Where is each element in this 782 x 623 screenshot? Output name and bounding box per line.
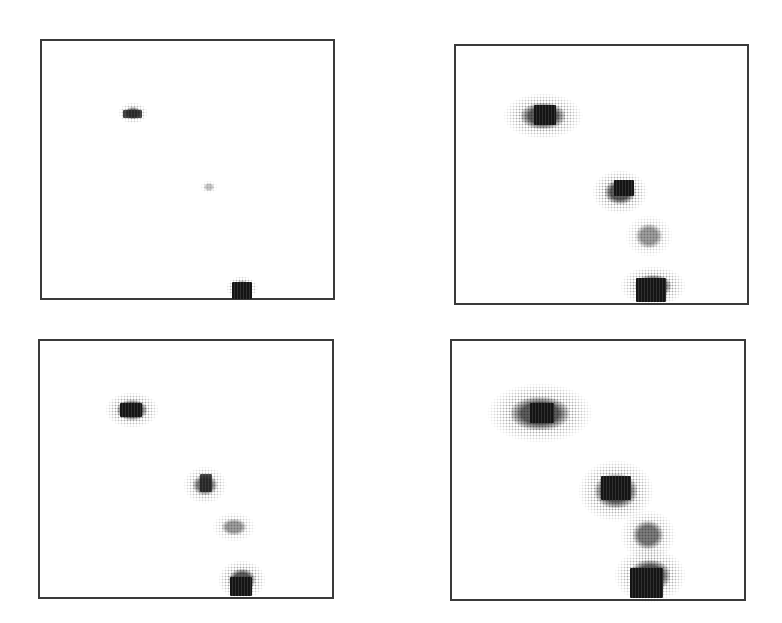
blob-mid-third-spot [222, 519, 246, 536]
panel-bottom-left [38, 339, 334, 599]
blob-core-second-spot [200, 474, 212, 492]
blob-core-upper-spot [530, 403, 554, 423]
blob-core-upper-spot [120, 403, 142, 417]
blob-mid-third-spot [633, 521, 664, 549]
blob-core-second-spot [614, 180, 634, 196]
blob-core-bottom-block [636, 278, 666, 302]
panel-top-left [40, 39, 335, 300]
blob-mid-third-spot [636, 224, 662, 247]
blob-core-bottom-block [232, 282, 252, 299]
blob-core-upper-spot [534, 105, 556, 125]
blob-core-upper-spot [123, 110, 142, 118]
blob-core-bottom-block [630, 568, 663, 598]
blob-core-bottom-block [230, 577, 252, 596]
blob-mid-middle-trace [204, 183, 214, 191]
blob-core-second-spot [601, 476, 631, 500]
